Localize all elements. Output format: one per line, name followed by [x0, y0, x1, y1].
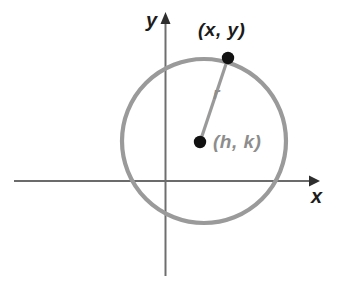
figure-canvas — [0, 0, 338, 292]
point-on-circle-label: (x, y) — [198, 20, 245, 39]
y-axis-group — [161, 12, 171, 276]
x-axis-label: x — [311, 186, 322, 206]
y-axis-label: y — [146, 10, 157, 30]
y-axis-arrow-icon — [161, 12, 171, 24]
point-on-circle-dot — [222, 52, 234, 64]
circle-geometry-figure: y x (x, y) (h, k) r — [0, 0, 338, 292]
radius-label: r — [213, 85, 220, 102]
circle-center-label: (h, k) — [213, 132, 261, 151]
circle-center-dot — [194, 136, 206, 148]
